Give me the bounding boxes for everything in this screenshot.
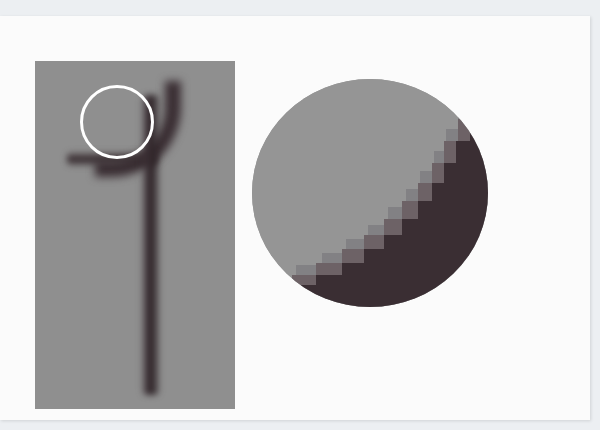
digit-image-panel	[35, 61, 235, 409]
pixel-grid	[252, 79, 488, 307]
document-page	[0, 16, 590, 420]
magnified-pixel-view	[252, 79, 488, 307]
highlight-circle	[80, 85, 154, 159]
